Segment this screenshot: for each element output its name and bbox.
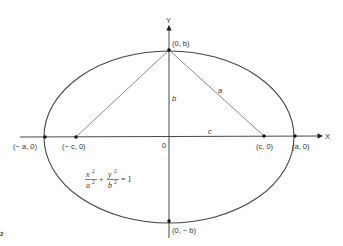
eq-num1: x [85,170,90,179]
point-focus-left [74,135,77,138]
segment-label-c: c [208,127,212,136]
segment-label-b: b [172,94,176,103]
segment-a [169,50,264,136]
x-axis [20,136,322,137]
label-focus-left: (− c, 0) [62,142,86,151]
label-vertex-left: (− a, 0) [13,142,37,151]
segment-label-a: a [218,86,222,95]
corner-mark: 2 [0,231,4,237]
eq-plus: + [99,175,104,184]
point-covertex-top [167,48,171,52]
label-vertex-right: (a, 0) [292,142,310,151]
eq-num2: y [107,170,112,179]
ellipse-diagram: Y X 0 (− a, 0) (− c, 0) (c, 0) (a, 0) (0… [0,0,343,246]
eq-den1: a [86,181,90,190]
eq-num1-exp: 2 [92,168,95,174]
eq-equals-one: = 1 [121,175,132,184]
point-vertex-left [43,135,46,138]
label-covertex-top: (0, b) [172,39,190,48]
eq-den1-exp: 2 [92,179,95,185]
y-axis-label: Y [166,16,171,25]
label-covertex-bottom: (0, − b) [172,226,196,235]
origin-label: 0 [162,141,166,150]
eq-den2-exp: 2 [114,179,117,185]
point-focus-right [262,134,265,137]
point-vertex-right [293,134,296,137]
label-focus-right: (c, 0) [256,142,274,151]
x-axis-label: X [325,132,330,141]
point-covertex-bottom [167,219,170,222]
eq-den2: b [108,181,112,190]
ellipse-equation: x 2 a 2 + y 2 b 2 = 1 [85,168,132,190]
segment-left [76,50,169,137]
eq-num2-exp: 2 [114,168,117,174]
